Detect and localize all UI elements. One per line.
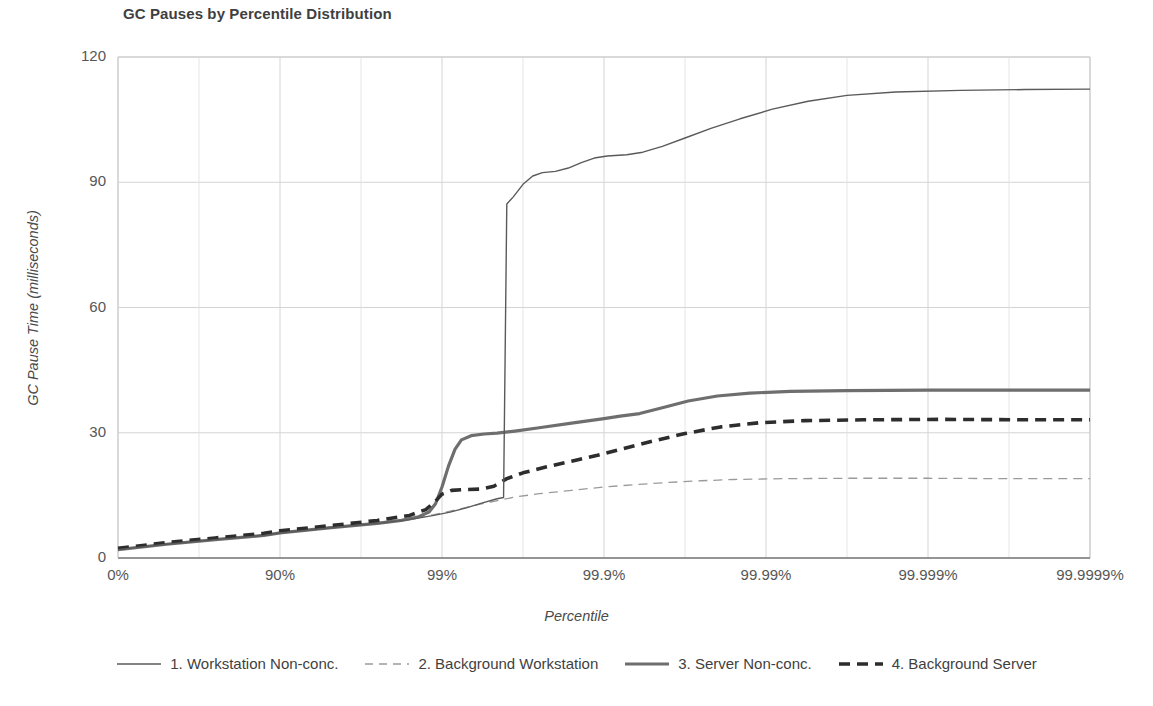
- x-tick-label: 0%: [53, 566, 183, 583]
- y-tick-label: 90: [46, 172, 106, 189]
- legend-item[interactable]: 2. Background Workstation: [364, 655, 598, 672]
- legend-item[interactable]: 1. Workstation Non-conc.: [116, 655, 338, 672]
- y-tick-label: 30: [46, 423, 106, 440]
- y-tick-label: 0: [46, 548, 106, 565]
- x-tick-label: 99.99%: [701, 566, 831, 583]
- legend-label: 1. Workstation Non-conc.: [170, 655, 338, 672]
- x-tick-label: 99.9999%: [1025, 566, 1153, 583]
- x-axis-title: Percentile: [0, 608, 1153, 624]
- x-tick-label: 90%: [215, 566, 345, 583]
- legend-label: 2. Background Workstation: [418, 655, 598, 672]
- legend-swatch: [624, 658, 670, 670]
- x-tick-label: 99.9%: [539, 566, 669, 583]
- chart-legend: 1. Workstation Non-conc.2. Background Wo…: [0, 655, 1153, 672]
- legend-item[interactable]: 3. Server Non-conc.: [624, 655, 811, 672]
- y-tick-label: 120: [46, 47, 106, 64]
- gc-pause-chart: GC Pauses by Percentile Distribution GC …: [0, 0, 1153, 706]
- y-tick-label: 60: [46, 298, 106, 315]
- x-tick-label: 99.999%: [863, 566, 993, 583]
- legend-label: 4. Background Server: [892, 655, 1037, 672]
- plot-area: [0, 0, 1153, 706]
- x-tick-label: 99%: [377, 566, 507, 583]
- legend-swatch: [116, 658, 162, 670]
- legend-swatch: [838, 658, 884, 670]
- legend-swatch: [364, 658, 410, 670]
- legend-item[interactable]: 4. Background Server: [838, 655, 1037, 672]
- legend-label: 3. Server Non-conc.: [678, 655, 811, 672]
